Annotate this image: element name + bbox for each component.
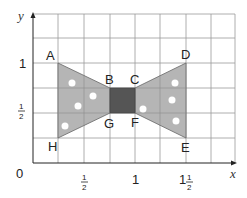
point-label-e: E [181,140,190,155]
point-label-h: H [48,139,57,154]
right-wing-trapezoid [135,63,186,138]
y-tick-1: 1 [19,56,26,71]
svg-text:2: 2 [187,183,192,192]
y-axis-label: y [16,8,24,23]
point-label-c: C [130,72,139,87]
svg-text:1: 1 [82,173,87,182]
svg-text:1: 1 [19,102,24,111]
svg-text:1: 1 [187,173,192,182]
svg-text:2: 2 [19,112,24,121]
point-label-b: B [105,72,114,87]
svg-text:2: 2 [82,183,87,192]
center-square [110,88,135,113]
svg-text:1: 1 [179,172,186,187]
point-label-a: A [46,48,55,63]
x-tick-half: 1 2 [81,173,88,192]
y-axis-arrow-icon [31,12,36,18]
y-tick-half: 1 2 [18,102,25,121]
origin-label: 0 [16,166,23,181]
bowtie-diagram: y x 0 1 1 2 1 2 1 1 1 2 A B C D E F G H [0,0,247,198]
point-label-g: G [104,116,114,131]
x-tick-1: 1 [132,172,139,187]
x-axis-label: x [229,166,236,181]
point-label-d: D [181,47,190,62]
point-label-f: F [131,115,139,130]
x-axis-arrow-icon [231,161,237,166]
x-tick-one-and-half: 1 1 2 [179,172,193,192]
